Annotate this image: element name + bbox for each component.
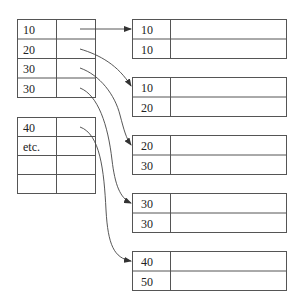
index-key: etc. [23, 140, 40, 154]
data-block-1 [133, 20, 287, 59]
index-diagram: 10 20 30 30 40 etc. [0, 0, 301, 306]
index-key: 30 [23, 82, 35, 96]
pointer-arrow-4 [80, 88, 131, 203]
data-block-4 [133, 194, 287, 233]
data-block-3 [133, 136, 287, 175]
data-key: 30 [141, 217, 153, 231]
data-block-2 [133, 78, 287, 117]
data-key: 10 [141, 81, 153, 95]
data-block-5 [133, 252, 287, 291]
index-key: 30 [23, 62, 35, 76]
index-key: 40 [23, 121, 35, 135]
data-key: 50 [141, 275, 153, 289]
data-key: 40 [141, 255, 153, 269]
data-key: 30 [141, 159, 153, 173]
pointer-arrow-3 [80, 68, 131, 145]
data-key: 30 [141, 197, 153, 211]
index-key: 10 [23, 23, 35, 37]
data-key: 10 [141, 43, 153, 57]
pointer-arrow-2 [80, 49, 131, 86]
data-key: 10 [141, 23, 153, 37]
data-key: 20 [141, 101, 153, 115]
data-key: 20 [141, 139, 153, 153]
index-key: 20 [23, 43, 35, 57]
